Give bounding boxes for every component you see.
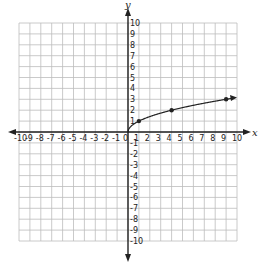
x-tick-label: -2 bbox=[101, 134, 109, 143]
x-tick-label: 8 bbox=[210, 134, 215, 143]
x-tick-label: 2 bbox=[145, 134, 150, 143]
y-tick-label: 7 bbox=[130, 52, 135, 61]
y-tick-label: -10 bbox=[130, 237, 143, 246]
curve-path bbox=[128, 98, 233, 132]
y-tick-label: 5 bbox=[130, 74, 135, 83]
y-tick-label: -8 bbox=[130, 215, 138, 224]
x-tick-label: 7 bbox=[199, 134, 204, 143]
x-tick-label: -5 bbox=[69, 134, 77, 143]
data-point bbox=[224, 97, 228, 101]
data-point bbox=[137, 119, 141, 123]
data-point bbox=[169, 108, 173, 112]
y-tick-label: 8 bbox=[130, 41, 135, 50]
y-tick-label: 3 bbox=[130, 95, 135, 104]
curve-end-arrow-icon bbox=[230, 95, 237, 101]
x-axis-label: x bbox=[252, 127, 258, 138]
x-tick-label: -3 bbox=[90, 134, 98, 143]
x-tick-label: -4 bbox=[79, 134, 87, 143]
y-tick-label: -9 bbox=[130, 226, 138, 235]
y-axis-label: y bbox=[124, 0, 131, 10]
x-axis-right-arrow-icon bbox=[243, 129, 251, 135]
x-tick-label: 10 bbox=[232, 134, 242, 143]
x-tick-label: -8 bbox=[36, 134, 44, 143]
y-tick-label: 10 bbox=[130, 19, 140, 28]
x-tick-label: 4 bbox=[167, 134, 172, 143]
y-axis-down-arrow-icon bbox=[125, 254, 131, 262]
x-tick-label: -7 bbox=[47, 134, 55, 143]
x-tick-label: 0 bbox=[123, 134, 128, 143]
coordinate-plane: -10-9-8-7-6-5-4-3-2-1012345678910-10-9-8… bbox=[0, 0, 259, 265]
y-tick-label: 2 bbox=[130, 106, 135, 115]
x-tick-label: -6 bbox=[58, 134, 66, 143]
y-tick-label: -2 bbox=[130, 150, 138, 159]
y-tick-label: -5 bbox=[130, 183, 138, 192]
y-tick-label: 9 bbox=[130, 30, 135, 39]
y-tick-label: -3 bbox=[130, 161, 138, 170]
x-tick-label: 5 bbox=[178, 134, 183, 143]
y-tick-label: -7 bbox=[130, 204, 138, 213]
x-tick-label: 6 bbox=[188, 134, 193, 143]
y-tick-label: -6 bbox=[130, 193, 138, 202]
y-tick-label: -4 bbox=[130, 172, 138, 181]
y-tick-label: 6 bbox=[130, 63, 135, 72]
y-tick-label: 4 bbox=[130, 84, 135, 93]
x-tick-label: 3 bbox=[156, 134, 161, 143]
x-tick-label: -9 bbox=[25, 134, 33, 143]
y-tick-label: -1 bbox=[130, 139, 138, 148]
x-tick-label: 9 bbox=[221, 134, 226, 143]
x-tick-label: -1 bbox=[112, 134, 120, 143]
